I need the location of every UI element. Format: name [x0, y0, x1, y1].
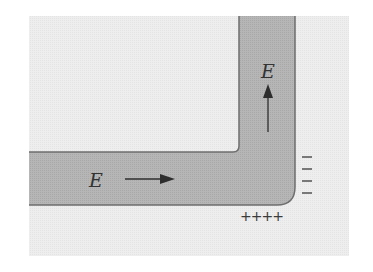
background-panel: [29, 16, 349, 256]
field-label-vertical: E: [260, 60, 275, 82]
positive-charges: ++++: [240, 208, 283, 224]
wire-corner-diagram: E E ++++: [0, 0, 373, 272]
field-label-horizontal: E: [88, 169, 103, 191]
